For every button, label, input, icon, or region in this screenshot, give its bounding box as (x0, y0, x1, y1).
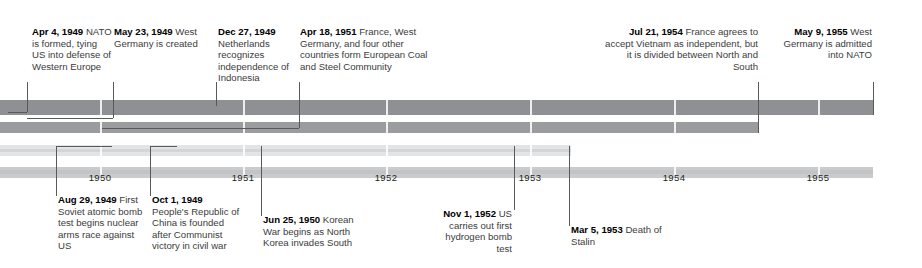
event-description: Netherlands recognizes independence of I… (218, 38, 289, 84)
event-text: Apr 4, 1949 NATO is formed, tying US int… (32, 26, 112, 72)
event-text: Aug 29, 1949 First Soviet atomic bomb te… (58, 194, 143, 252)
gridline-1954 (674, 100, 676, 178)
band-1 (0, 100, 873, 115)
timeline-event-label: May 9, 1955 West Germany is admitted int… (780, 26, 872, 61)
event-text: Nov 1, 1952 US carries out first hydroge… (440, 208, 512, 254)
leader-line-vertical (216, 82, 217, 106)
year-tick-label: 1954 (663, 172, 686, 183)
leader-line-horizontal (56, 146, 112, 147)
leader-line-vertical (873, 82, 874, 115)
event-text: Jul 21, 1954 France agrees to accept Vie… (600, 26, 758, 72)
event-date: May 9, 1955 (794, 26, 847, 37)
leader-line-vertical (27, 82, 28, 112)
leader-line-vertical (113, 82, 114, 118)
leader-line-horizontal (8, 112, 27, 113)
event-date: Oct 1, 1949 (152, 194, 203, 205)
leader-line-vertical (758, 82, 759, 133)
timeline-event-label: Apr 18, 1951 France, West Germany, and f… (300, 26, 430, 72)
gridline-1955 (818, 100, 820, 178)
year-tick-label: 1955 (807, 172, 830, 183)
event-date: May 23, 1949 (114, 26, 173, 37)
event-text: Mar 5, 1953 Death of Stalin (571, 224, 671, 247)
timeline-event-label: Nov 1, 1952 US carries out first hydroge… (440, 208, 512, 254)
timeline-event-label: Jun 25, 1950 Korean War begins as North … (263, 214, 359, 249)
timeline-event-label: Jul 21, 1954 France agrees to accept Vie… (600, 26, 758, 72)
band-sheen (0, 149, 571, 152)
timeline-event-label: Aug 29, 1949 First Soviet atomic bomb te… (58, 194, 143, 252)
gridline-1952 (386, 100, 388, 178)
leader-line-horizontal (27, 118, 113, 119)
leader-line-vertical (514, 146, 515, 210)
event-text: Apr 18, 1951 France, West Germany, and f… (300, 26, 430, 72)
event-date: Apr 18, 1951 (300, 26, 357, 37)
event-date: Jun 25, 1950 (263, 214, 320, 225)
band-4 (0, 167, 873, 178)
event-date: Mar 5, 1953 (571, 224, 623, 235)
event-date: Aug 29, 1949 (58, 194, 117, 205)
event-date: Apr 4, 1949 (32, 26, 83, 37)
event-date: Jul 21, 1954 (629, 26, 683, 37)
event-text: Oct 1, 1949 People's Republic of China i… (152, 194, 240, 252)
leader-line-vertical (569, 146, 570, 226)
leader-line-horizontal (150, 146, 177, 147)
leader-line-vertical (56, 146, 57, 196)
timeline-event-label: Oct 1, 1949 People's Republic of China i… (152, 194, 240, 252)
year-tick-label: 1952 (375, 172, 398, 183)
timeline-event-label: May 23, 1949 West Germany is created (114, 26, 204, 49)
leader-line-vertical (150, 146, 151, 196)
event-description: People's Republic of China is founded af… (152, 206, 239, 252)
timeline-event-label: Apr 4, 1949 NATO is formed, tying US int… (32, 26, 112, 72)
gridline-1951 (243, 100, 245, 178)
event-text: Jun 25, 1950 Korean War begins as North … (263, 214, 359, 249)
event-text: Dec 27, 1949 Netherlands recognizes inde… (218, 26, 300, 84)
gridline-1950 (100, 100, 102, 178)
event-text: May 23, 1949 West Germany is created (114, 26, 204, 49)
year-tick-label: 1953 (519, 172, 542, 183)
timeline-event-label: Dec 27, 1949 Netherlands recognizes inde… (218, 26, 300, 84)
timeline-graphic: 195019511952195319541955 Apr 4, 1949 NAT… (0, 0, 922, 268)
leader-line-vertical (299, 82, 300, 128)
event-date: Nov 1, 1952 (443, 208, 496, 219)
year-tick-label: 1951 (232, 172, 255, 183)
leader-line-vertical (261, 146, 262, 216)
year-tick-label: 1950 (89, 172, 112, 183)
band-sheen (0, 170, 873, 174)
leader-line-horizontal (102, 128, 299, 129)
gridline-1953 (530, 100, 532, 178)
event-date: Dec 27, 1949 (218, 26, 276, 37)
timeline-event-label: Mar 5, 1953 Death of Stalin (571, 224, 671, 247)
event-text: May 9, 1955 West Germany is admitted int… (780, 26, 872, 61)
